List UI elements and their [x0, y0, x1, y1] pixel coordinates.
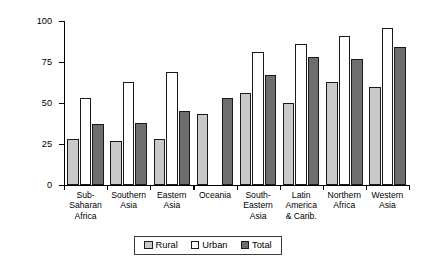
bar-group	[366, 21, 409, 185]
bar-group	[64, 21, 107, 185]
legend-label-urban: Urban	[202, 240, 227, 250]
y-tick-label: 75	[42, 57, 52, 67]
bar-urban	[80, 98, 92, 185]
bar-total	[351, 59, 363, 185]
legend-item-rural: Rural	[144, 240, 178, 250]
bar-group	[280, 21, 323, 185]
y-tick-label: 0	[47, 180, 52, 190]
y-tick-label: 50	[42, 98, 52, 108]
bar-group	[237, 21, 280, 185]
y-tick-label: 100	[37, 16, 52, 26]
bar-urban	[252, 52, 264, 185]
bar-rural	[369, 87, 381, 185]
bar-group	[107, 21, 150, 185]
bar-group	[323, 21, 366, 185]
legend-item-total: Total	[241, 240, 272, 250]
bar-total	[308, 57, 320, 185]
bar-total	[265, 75, 277, 185]
bar-total	[135, 123, 147, 185]
bar-rural	[67, 139, 79, 185]
bar-total	[394, 47, 406, 185]
bar-group	[193, 21, 236, 185]
legend-swatch-rural	[144, 241, 153, 250]
x-category-label: Eastern Asia	[150, 190, 193, 211]
bar-urban	[123, 82, 135, 185]
legend-item-urban: Urban	[191, 240, 228, 250]
y-tick-label: 25	[42, 139, 52, 149]
bar-rural	[110, 141, 122, 185]
bar-rural	[283, 103, 295, 185]
bar-urban	[339, 36, 351, 185]
bar-urban	[295, 44, 307, 185]
plot-area: 0255075100	[64, 21, 409, 185]
bar-urban	[166, 72, 178, 185]
bar-rural	[197, 114, 209, 185]
bar-urban	[382, 28, 394, 185]
legend-swatch-total	[241, 241, 250, 250]
legend-swatch-urban	[191, 241, 200, 250]
bar-total	[179, 111, 191, 185]
bar-rural	[240, 93, 252, 185]
chart-legend: Rural Urban Total	[134, 236, 282, 255]
x-category-label: Northern Africa	[323, 190, 366, 211]
x-category-label: Oceania	[193, 190, 236, 200]
x-category-label: Southern Asia	[107, 190, 150, 211]
bar-rural	[326, 82, 338, 185]
bar-rural	[154, 139, 166, 185]
legend-label-total: Total	[252, 240, 272, 250]
bar-chart: Proportion of Population with Access to …	[0, 0, 430, 270]
bar-total	[92, 124, 104, 185]
x-tick	[409, 185, 410, 190]
x-category-label: Latin America & Carib.	[280, 190, 323, 221]
x-category-label: Sub- Saharan Africa	[64, 190, 107, 221]
legend-label-rural: Rural	[156, 240, 178, 250]
bar-total	[222, 98, 234, 185]
x-category-label: South- Eastern Asia	[237, 190, 280, 221]
x-category-label: Western Asia	[366, 190, 409, 211]
bar-group	[150, 21, 193, 185]
